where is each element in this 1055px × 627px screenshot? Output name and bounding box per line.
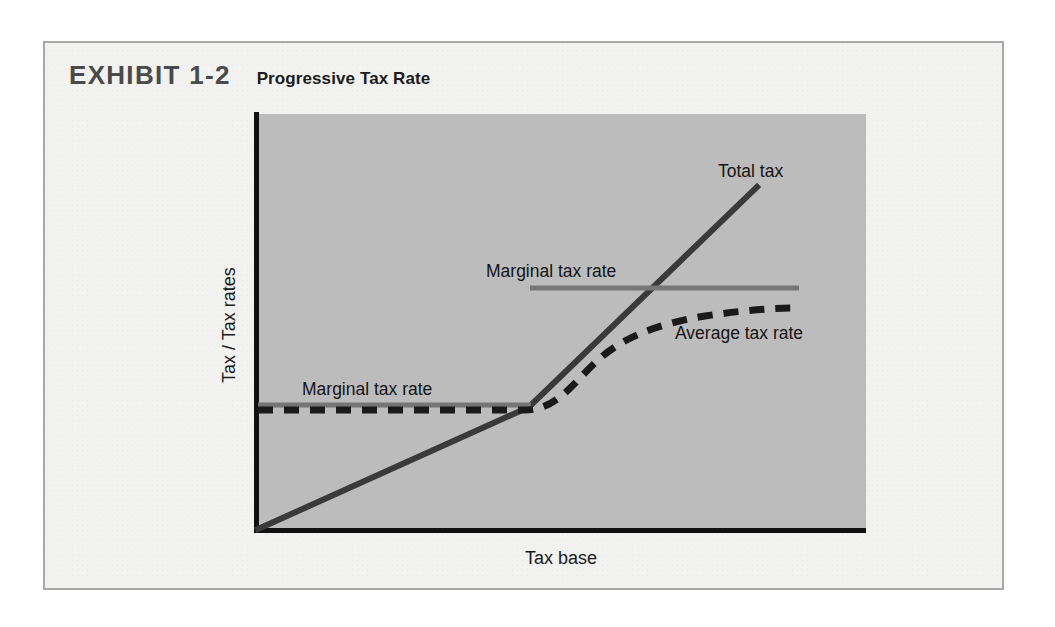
chart-container: Tax / Tax rates Tax base Total tax Margi… <box>45 43 1006 592</box>
exhibit-figure-panel: EXHIBIT 1-2 Progressive Tax Rate Tax / T… <box>43 41 1004 590</box>
marginal-tax-rate-label-upper: Marginal tax rate <box>486 261 616 281</box>
y-axis-label: Tax / Tax rates <box>219 267 239 383</box>
total-tax-label: Total tax <box>718 161 783 181</box>
x-axis-label: Tax base <box>525 548 597 568</box>
progressive-tax-rate-chart: Tax / Tax rates Tax base Total tax Margi… <box>45 43 1006 592</box>
marginal-tax-rate-label-lower: Marginal tax rate <box>302 379 432 399</box>
average-tax-rate-label: Average tax rate <box>675 323 803 343</box>
